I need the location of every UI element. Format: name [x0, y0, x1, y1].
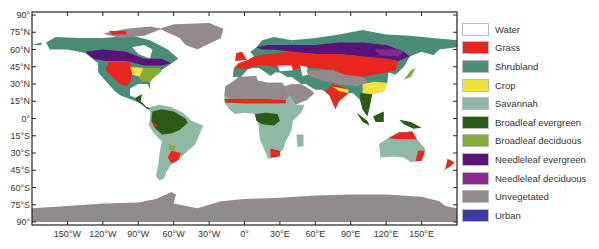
legend-item-needleleaf-deciduous: Needleleaf deciduous [462, 169, 599, 188]
legend-item-urban: Urban [462, 206, 599, 225]
legend-label: Needleleaf evergreen [495, 154, 586, 165]
japan [398, 68, 416, 82]
y-tick-label: 60°N [10, 45, 30, 55]
sahel [224, 99, 285, 104]
legend-item-crop: Crop [462, 76, 599, 95]
legend-label: Shrubland [495, 61, 538, 72]
x-tick-label: 30°W [198, 229, 221, 239]
legend-swatch [462, 116, 489, 129]
legend-swatch [462, 153, 489, 166]
x-tick-label: 120°W [89, 229, 117, 239]
greenland [160, 23, 224, 49]
y-tick-label: 90° [16, 217, 30, 227]
x-tick-label: 150°E [409, 229, 434, 239]
legend-label: Grass [495, 42, 520, 53]
legend-item-savannah: Savannah [462, 94, 599, 113]
legend-item-broadleaf-evergreen: Broadleaf evergreen [462, 113, 599, 132]
antarctica [32, 192, 457, 222]
y-tick-label: 30°S [10, 148, 30, 158]
new-zealand [442, 159, 455, 172]
legend-label: Crop [495, 80, 516, 91]
legend-label: Urban [495, 210, 521, 221]
x-tick-label: 120°E [374, 229, 399, 239]
x-tick-label: 90°E [341, 229, 361, 239]
legend-item-needleleaf-evergreen: Needleleaf evergreen [462, 150, 599, 169]
legend-swatch [462, 79, 489, 92]
legend-label: Unvegetated [495, 191, 549, 202]
southeast-asia [360, 93, 372, 116]
legend-swatch [462, 97, 489, 110]
legend-label: Needleleaf deciduous [495, 173, 586, 184]
y-tick-label: 0° [21, 114, 30, 124]
legend: WaterGrassShrublandCropSavannahBroadleaf… [462, 20, 599, 225]
new-guinea [399, 120, 421, 129]
y-tick-label: 90° [16, 10, 30, 20]
legend-item-broadleaf-deciduous: Broadleaf deciduous [462, 132, 599, 151]
legend-item-water: Water [462, 20, 599, 39]
x-tick-label: 60°W [163, 229, 186, 239]
legend-label: Water [495, 24, 520, 35]
y-tick-label: 15°N [10, 96, 30, 106]
x-tick-label: 30°E [270, 229, 290, 239]
british-isles [235, 52, 247, 61]
x-tick-label: 60°E [306, 229, 326, 239]
legend-swatch [462, 190, 489, 203]
y-tick-label: 15°S [10, 131, 30, 141]
central-america [136, 94, 153, 109]
borneo [373, 112, 384, 122]
legend-item-grass: Grass [462, 39, 599, 58]
y-tick-label: 75°S [10, 200, 30, 210]
legend-label: Savannah [495, 98, 538, 109]
legend-item-unvegetated: Unvegetated [462, 187, 599, 206]
x-tick-label: 150°W [54, 229, 82, 239]
y-tick-label: 45°N [10, 62, 30, 72]
y-tick-label: 60°S [10, 183, 30, 193]
legend-label: Broadleaf evergreen [495, 117, 581, 128]
y-tick-label: 30°N [10, 79, 30, 89]
north-australia-grass [389, 131, 417, 139]
legend-swatch [462, 134, 489, 147]
y-tick-label: 45°S [10, 165, 30, 175]
legend-item-shrubland: Shrubland [462, 57, 599, 76]
legend-swatch [462, 41, 489, 54]
x-tick-label: 0° [240, 229, 249, 239]
madagascar [296, 135, 303, 148]
china-crop [363, 82, 388, 95]
continents-layer [32, 23, 457, 222]
chukotka [32, 43, 41, 45]
legend-swatch [462, 209, 489, 222]
y-tick-label: 75°N [10, 27, 30, 37]
legend-swatch [462, 172, 489, 185]
x-tick-label: 90°W [127, 229, 150, 239]
sahara [224, 76, 289, 100]
legend-swatch [462, 23, 489, 36]
legend-swatch [462, 60, 489, 73]
legend-label: Broadleaf deciduous [495, 135, 582, 146]
